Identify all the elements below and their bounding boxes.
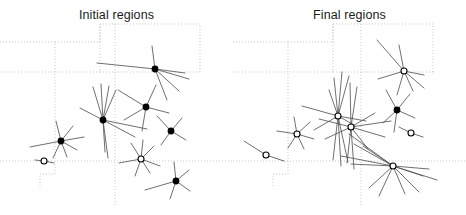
point-ray <box>397 71 404 95</box>
point-ray <box>142 107 146 131</box>
data-point <box>302 72 366 166</box>
point-ray <box>146 85 156 107</box>
data-point <box>277 117 314 149</box>
panel-initial-regions: Initial regions <box>0 0 233 215</box>
point-ray <box>351 127 385 137</box>
marker-filled-dot <box>58 138 65 145</box>
point-ray <box>369 166 393 188</box>
point-ray <box>354 144 393 166</box>
region-boundaries-initial <box>0 24 233 205</box>
point-ray <box>351 87 357 127</box>
markers-initial <box>30 46 190 199</box>
point-ray <box>97 63 155 69</box>
data-point <box>383 90 415 132</box>
point-ray <box>377 40 404 71</box>
data-point <box>157 116 186 145</box>
marker-open-circle <box>138 156 144 162</box>
panel-final-regions: Final regions <box>233 0 466 215</box>
region-boundary <box>288 24 333 42</box>
data-point <box>97 46 189 100</box>
marker-filled-dot <box>143 104 150 111</box>
marker-filled-dot <box>152 66 159 73</box>
point-ray <box>61 137 84 141</box>
point-ray <box>155 69 167 100</box>
plot-area-final <box>233 0 466 215</box>
figure-root: Initial regions Final regions <box>0 0 466 215</box>
point-ray <box>399 45 404 71</box>
region-boundary <box>55 24 100 42</box>
marker-open-circle <box>335 113 341 119</box>
marker-open-circle <box>348 124 354 130</box>
marker-open-circle <box>390 163 396 169</box>
point-ray <box>350 83 351 127</box>
data-point <box>244 141 284 161</box>
marker-open-circle <box>294 131 300 137</box>
marker-open-circle <box>401 68 407 74</box>
marker-filled-dot <box>173 178 180 185</box>
region-boundary <box>333 24 433 72</box>
marker-filled-dot <box>100 117 107 124</box>
marker-filled-dot <box>394 107 401 114</box>
point-ray <box>351 121 391 127</box>
point-ray <box>103 86 109 120</box>
point-ray <box>103 90 116 120</box>
marker-open-circle <box>41 158 47 164</box>
point-ray <box>124 107 146 120</box>
point-ray <box>146 107 169 113</box>
point-ray <box>30 141 61 147</box>
point-ray <box>393 166 405 194</box>
region-boundary <box>0 42 55 186</box>
scatter-svg-initial <box>0 0 233 215</box>
point-ray <box>244 141 266 155</box>
region-boundary <box>233 42 288 186</box>
marker-open-circle <box>408 130 414 136</box>
point-ray <box>118 90 146 107</box>
point-ray <box>325 127 351 139</box>
point-ray <box>145 181 176 190</box>
data-point <box>118 85 169 131</box>
data-point <box>30 121 84 158</box>
data-point <box>377 40 424 95</box>
plot-area-initial <box>0 0 233 215</box>
point-ray <box>302 106 338 116</box>
point-ray <box>404 71 424 88</box>
data-point <box>145 162 190 199</box>
data-point <box>319 83 391 169</box>
data-point <box>399 127 423 137</box>
point-ray <box>103 120 147 129</box>
data-point <box>80 84 147 158</box>
scatter-svg-final <box>233 0 466 215</box>
data-point <box>119 140 160 176</box>
point-ray <box>152 46 155 69</box>
point-ray <box>351 127 354 169</box>
marker-open-circle <box>263 152 269 158</box>
point-ray <box>103 120 135 137</box>
marker-filled-dot <box>168 128 175 135</box>
point-ray <box>386 90 397 110</box>
markers-final <box>244 40 437 196</box>
point-ray <box>379 166 393 196</box>
data-point <box>341 134 437 196</box>
